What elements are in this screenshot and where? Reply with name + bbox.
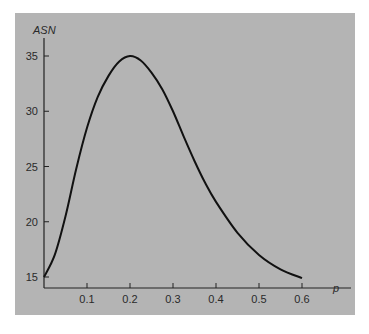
y-tick-label: 25 — [26, 161, 38, 173]
y-tick-label: 30 — [26, 105, 38, 117]
asn-chart: 1520253035 0.10.20.30.40.50.6 ASN p — [0, 0, 369, 334]
y-tick-label: 15 — [26, 271, 38, 283]
x-tick-label: 0.2 — [122, 293, 137, 305]
y-tick-label: 35 — [26, 50, 38, 62]
y-tick-label: 20 — [26, 216, 38, 228]
x-tick-label: 0.5 — [251, 293, 266, 305]
x-axis-title: p — [332, 282, 339, 294]
x-tick-label: 0.6 — [294, 293, 309, 305]
x-tick-label: 0.3 — [165, 293, 180, 305]
x-tick-label: 0.1 — [79, 293, 94, 305]
chart-background — [15, 13, 355, 315]
y-axis-title: ASN — [32, 24, 56, 36]
x-tick-label: 0.4 — [208, 293, 223, 305]
